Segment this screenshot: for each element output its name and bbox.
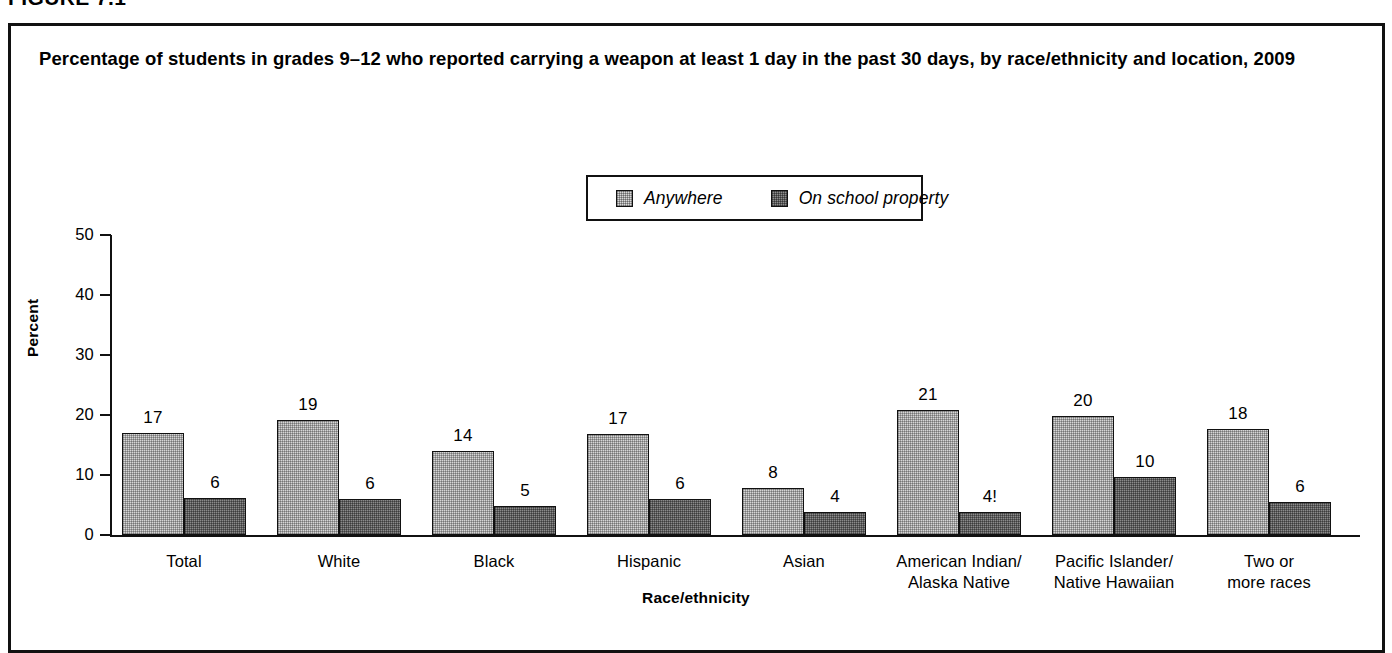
bar-anywhere bbox=[742, 488, 804, 535]
bar-anywhere bbox=[122, 433, 184, 535]
bar-on-school-property bbox=[804, 512, 866, 535]
bar-on-school-property bbox=[494, 506, 556, 535]
bar-value-label: 20 bbox=[1052, 392, 1114, 409]
bar-value-label: 21 bbox=[897, 386, 959, 403]
x-axis-line bbox=[110, 535, 1360, 537]
bar-anywhere bbox=[897, 410, 959, 535]
bar-on-school-property bbox=[649, 499, 711, 535]
bar-anywhere bbox=[587, 434, 649, 535]
y-axis-tick-label: 10 bbox=[48, 466, 94, 483]
y-axis-tick-label: 0 bbox=[48, 526, 94, 543]
bar-value-label: 10 bbox=[1114, 453, 1176, 470]
bar-on-school-property bbox=[1114, 477, 1176, 535]
bar-value-label: 17 bbox=[587, 410, 649, 427]
bar-on-school-property bbox=[184, 498, 246, 535]
y-axis-tick-label: 40 bbox=[48, 286, 94, 303]
y-axis-line bbox=[110, 235, 112, 536]
bar-value-label: 6 bbox=[184, 474, 246, 491]
x-axis-title: Race/ethnicity bbox=[0, 589, 1392, 607]
y-axis-tick bbox=[100, 474, 111, 476]
bar-value-label: 19 bbox=[277, 396, 339, 413]
bar-value-label: 8 bbox=[742, 464, 804, 481]
bar-value-label: 4! bbox=[959, 488, 1021, 505]
bar-anywhere bbox=[277, 420, 339, 535]
bar-value-label: 14 bbox=[432, 427, 494, 444]
y-axis-tick bbox=[100, 414, 111, 416]
bar-value-label: 17 bbox=[122, 409, 184, 426]
bar-on-school-property bbox=[339, 499, 401, 535]
y-axis-tick bbox=[100, 534, 111, 536]
y-axis-tick-label: 30 bbox=[48, 346, 94, 363]
x-axis-category-label: Two ormore races bbox=[1159, 551, 1379, 593]
bar-anywhere bbox=[432, 451, 494, 535]
bar-on-school-property bbox=[1269, 502, 1331, 535]
y-axis-tick-label: 50 bbox=[48, 226, 94, 243]
y-axis-tick-label: 20 bbox=[48, 406, 94, 423]
bar-anywhere bbox=[1052, 416, 1114, 535]
y-axis-tick bbox=[100, 294, 111, 296]
bar-value-label: 5 bbox=[494, 482, 556, 499]
bar-value-label: 6 bbox=[1269, 478, 1331, 495]
bar-value-label: 6 bbox=[649, 475, 711, 492]
y-axis-tick bbox=[100, 234, 111, 236]
y-axis-title: Percent bbox=[24, 299, 42, 357]
bar-anywhere bbox=[1207, 429, 1269, 535]
bar-value-label: 18 bbox=[1207, 405, 1269, 422]
bar-value-label: 4 bbox=[804, 488, 866, 505]
bar-value-label: 6 bbox=[339, 475, 401, 492]
bar-on-school-property bbox=[959, 512, 1021, 535]
y-axis-tick bbox=[100, 354, 111, 356]
